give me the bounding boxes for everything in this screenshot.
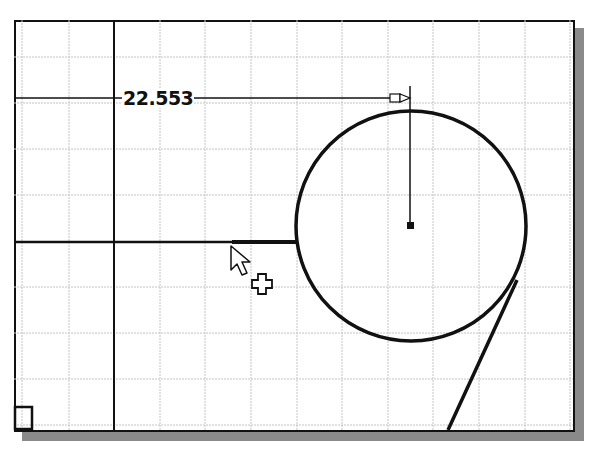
origin-marker-icon [15,407,32,429]
plus-cursor-icon [252,274,272,294]
sketch-canvas[interactable] [0,0,597,456]
grid [14,20,573,430]
dimension-value-label[interactable]: 22.553 [122,88,194,108]
dimension-arrowhead-icon [390,94,410,102]
tangent-line[interactable] [448,280,517,430]
mouse-pointer-icon [231,246,250,275]
circle-center-point[interactable] [407,222,414,229]
